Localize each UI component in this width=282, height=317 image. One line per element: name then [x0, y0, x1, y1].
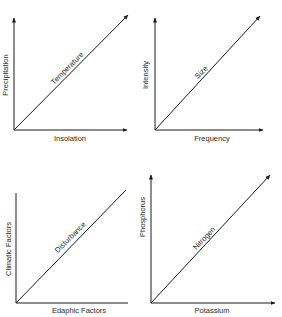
y-axis-label: Intensity — [141, 61, 150, 89]
panel-bottom-left: Edaphic Factors Climatic Factors Disturb… — [4, 190, 128, 315]
diagonal-arrow — [151, 175, 270, 303]
x-axis-label: Frequency — [194, 134, 230, 143]
y-axis-label: Precipitation — [1, 54, 10, 95]
diagonal-label: Temperature — [49, 50, 85, 86]
diagonal-label: Size — [193, 64, 210, 81]
y-axis-label: Phosphorus — [138, 197, 147, 237]
diagram-canvas: Insolation Precipitation Temperature Fre… — [0, 0, 282, 317]
diagonal-label: Nitrogen — [191, 225, 217, 252]
panel-top-right: Frequency Intensity Size — [141, 16, 263, 143]
x-axis-label: Edaphic Factors — [52, 306, 106, 315]
diagonal-arrow — [14, 15, 128, 130]
y-axis-label: Climatic Factors — [4, 222, 13, 276]
panel-top-left: Insolation Precipitation Temperature — [1, 15, 128, 143]
x-axis-label: Potassium — [194, 306, 229, 315]
x-axis-label: Insolation — [54, 134, 86, 143]
diagonal-line — [16, 190, 126, 303]
panel-bottom-right: Potassium Phosphorus Nitrogen — [138, 175, 275, 315]
diagonal-label: Disturbance — [53, 220, 88, 255]
diagonal-arrow — [155, 16, 260, 130]
